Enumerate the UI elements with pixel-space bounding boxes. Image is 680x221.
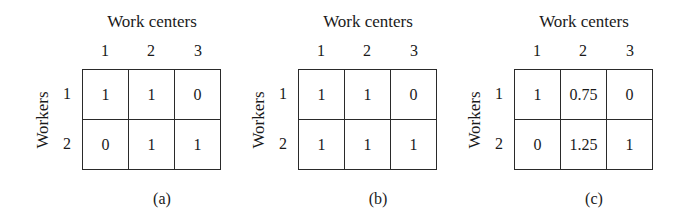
matrix-cell: 1 xyxy=(129,120,175,170)
matrix-cell: 1 xyxy=(299,120,345,170)
matrix-row-2: 1 1 1 xyxy=(299,120,437,170)
row-axis-title: Workers xyxy=(33,80,53,160)
matrix-panel-a: Work centers 1 2 3 Workers 1 2 1 1 0 0 1… xyxy=(0,0,226,221)
column-label-3: 3 xyxy=(391,42,437,60)
column-axis-title: Work centers xyxy=(514,12,654,32)
matrix-cell: 1 xyxy=(391,120,437,170)
matrix-cell: 1 xyxy=(515,70,561,120)
matrix-cell: 1.25 xyxy=(561,120,607,170)
panel-caption: (c) xyxy=(574,190,614,208)
matrix-row-2: 0 1 1 xyxy=(83,120,221,170)
panel-caption: (a) xyxy=(142,190,182,208)
column-label-3: 3 xyxy=(607,42,653,60)
matrix-row-1: 1 1 0 xyxy=(83,70,221,120)
matrix-cell: 1 xyxy=(345,70,391,120)
matrix-cell: 1 xyxy=(129,70,175,120)
matrix-cell: 1 xyxy=(345,120,391,170)
matrix-grid: 1 1 0 1 1 1 xyxy=(298,69,437,170)
matrix-row-1: 1 1 0 xyxy=(299,70,437,120)
column-label-1: 1 xyxy=(82,42,128,60)
column-label-1: 1 xyxy=(298,42,344,60)
column-label-2: 2 xyxy=(560,42,606,60)
matrix-cell: 1 xyxy=(175,120,221,170)
row-label-1: 1 xyxy=(60,85,74,103)
row-label-1: 1 xyxy=(276,85,290,103)
column-label-2: 2 xyxy=(128,42,174,60)
matrix-cell: 0 xyxy=(391,70,437,120)
matrix-cell: 1 xyxy=(607,120,653,170)
matrix-row-2: 0 1.25 1 xyxy=(515,120,653,170)
panel-caption: (b) xyxy=(358,190,398,208)
row-label-2: 2 xyxy=(276,135,290,153)
column-label-2: 2 xyxy=(344,42,390,60)
row-label-2: 2 xyxy=(492,135,506,153)
row-axis-title: Workers xyxy=(465,80,485,160)
matrix-cell: 1 xyxy=(83,70,129,120)
matrix-cell: 0 xyxy=(515,120,561,170)
row-label-2: 2 xyxy=(60,135,74,153)
row-label-1: 1 xyxy=(492,85,506,103)
matrix-panel-c: Work centers 1 2 3 Workers 1 2 1 0.75 0 … xyxy=(432,0,658,221)
matrix-panel-b: Work centers 1 2 3 Workers 1 2 1 1 0 1 1… xyxy=(216,0,442,221)
column-label-1: 1 xyxy=(514,42,560,60)
column-axis-title: Work centers xyxy=(298,12,438,32)
matrix-cell: 1 xyxy=(299,70,345,120)
matrix-grid: 1 1 0 0 1 1 xyxy=(82,69,221,170)
row-axis-title: Workers xyxy=(249,80,269,160)
matrix-cell: 0 xyxy=(607,70,653,120)
matrix-cell: 0 xyxy=(83,120,129,170)
matrix-cell: 0.75 xyxy=(561,70,607,120)
matrix-cell: 0 xyxy=(175,70,221,120)
column-label-3: 3 xyxy=(175,42,221,60)
column-axis-title: Work centers xyxy=(82,12,222,32)
matrix-row-1: 1 0.75 0 xyxy=(515,70,653,120)
matrix-grid: 1 0.75 0 0 1.25 1 xyxy=(514,69,653,170)
